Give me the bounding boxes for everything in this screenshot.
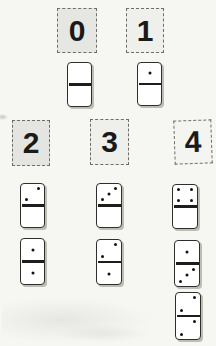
pip [193,320,196,323]
pip [37,187,40,190]
domino-bottom-half [173,208,197,228]
domino-3-0 [96,183,122,228]
domino-bottom-half [68,86,91,106]
domino-2-2 [175,292,201,340]
pip [101,198,104,201]
domino-4-0 [172,184,198,229]
pip [108,193,111,196]
domino-bottom-half [21,263,44,284]
domino-top-half [175,241,199,262]
domino-2-0 [20,183,45,228]
card-number: 2 [23,128,40,158]
scan-artifact [60,325,150,343]
card-number: 3 [101,127,118,157]
domino-top-half [97,184,121,204]
worksheet: 0 1 2 3 4 [0,0,216,346]
pip [177,188,180,191]
domino-top-half [21,184,44,204]
pip [179,280,182,283]
domino-top-half [97,240,121,261]
pip [114,243,117,246]
pip [186,274,189,277]
domino-bottom-half [176,317,200,339]
number-card-1: 1 [126,8,164,53]
scan-artifact [2,297,152,343]
card-number: 1 [137,16,154,46]
domino-bottom-half [21,207,44,227]
number-card-0: 0 [57,8,97,53]
domino-top-half [176,293,200,315]
number-card-2: 2 [12,120,50,166]
pip [25,198,28,201]
scan-artifact [0,114,8,120]
domino-1-1 [20,238,45,285]
domino-top-half [173,185,197,205]
pip [180,333,183,336]
domino-1-0 [137,62,162,106]
domino-bottom-half [138,85,161,105]
pip [31,272,34,275]
card-number: 0 [69,16,86,46]
domino-top-half [138,63,161,83]
pip [180,309,183,312]
pip [31,248,34,251]
number-card-4: 4 [173,119,213,164]
pip [192,268,195,271]
domino-top-half [68,63,91,83]
domino-bottom-half [175,265,199,286]
pip [186,250,189,253]
card-number: 4 [184,127,202,158]
domino-2-1 [96,239,122,285]
domino-bottom-half [97,207,121,227]
pip [193,296,196,299]
domino-1-3 [174,240,200,287]
pip [177,199,180,202]
pip [148,71,151,74]
domino-bottom-half [97,263,121,284]
domino-0-0 [67,62,92,107]
domino-top-half [21,239,44,260]
pip [108,272,111,275]
pip [114,187,117,190]
pip [190,188,193,191]
number-card-3: 3 [90,119,129,165]
pip [101,255,104,258]
pip [190,199,193,202]
